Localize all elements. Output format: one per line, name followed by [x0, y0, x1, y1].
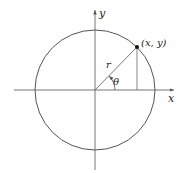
- angle-label: θ: [113, 76, 119, 87]
- radius-label: r: [106, 59, 112, 70]
- point-marker: [135, 45, 139, 49]
- point-label: (x, y): [141, 37, 167, 48]
- x-axis-label: x: [168, 92, 175, 105]
- polar-diagram: y x (x, y) r θ: [0, 0, 188, 173]
- y-axis-label: y: [98, 7, 106, 20]
